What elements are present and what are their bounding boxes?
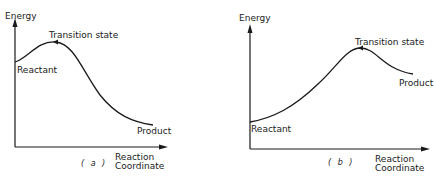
x-axis-arrow-icon (421, 147, 430, 152)
energy-diagram-b: Energy Transition state Reactant Product… (218, 0, 436, 176)
energy-curve (250, 48, 413, 122)
y-axis-arrow-icon (248, 24, 253, 33)
transition-state-label: Transition state (355, 37, 424, 47)
y-axis-label: Energy (5, 11, 37, 21)
transition-state-label: Transition state (49, 30, 118, 40)
x-axis-label-line2: Coordinate (375, 163, 424, 173)
energy-curve (15, 42, 153, 125)
caption-a: ( a ) (81, 159, 107, 168)
energy-diagram-a: Energy Transition state Reactant Product… (0, 0, 218, 176)
product-label: Product (137, 126, 171, 136)
x-axis-arrow-icon (159, 145, 168, 150)
y-axis-label: Energy (239, 13, 271, 23)
reactant-label: Reactant (17, 65, 57, 75)
diagram-b-plot (218, 0, 436, 176)
x-axis-label-line2: Coordinate (115, 161, 164, 171)
product-label: Product (399, 78, 433, 88)
caption-b: ( b ) (328, 158, 354, 167)
transition-state-marker-icon (53, 40, 58, 45)
diagram-a-plot (0, 0, 218, 176)
reactant-label: Reactant (251, 124, 291, 134)
